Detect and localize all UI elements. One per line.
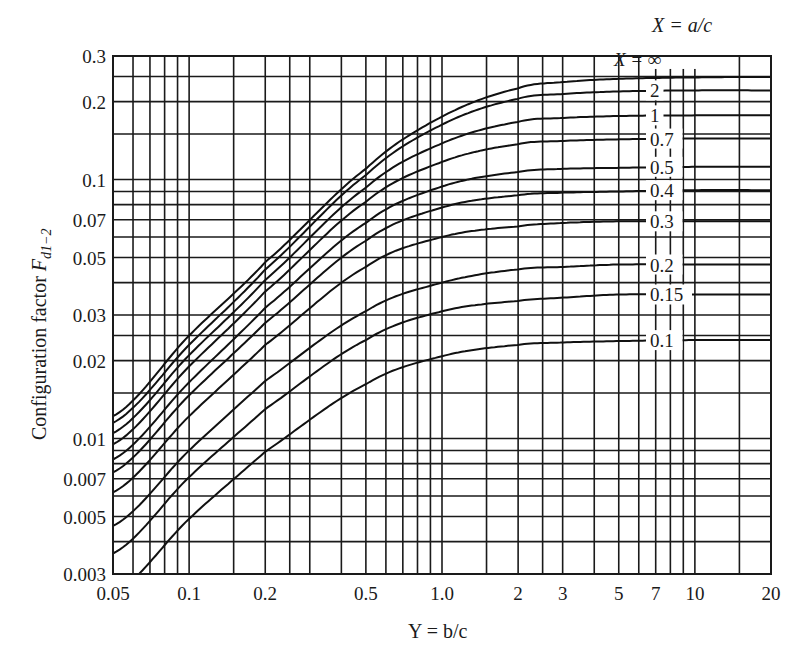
- x-tick-label: 1.0: [430, 583, 454, 604]
- x-tick-label: 0.5: [354, 583, 378, 604]
- y-tick-label: 0.3: [82, 46, 106, 67]
- y-tick-label: 0.007: [63, 469, 106, 490]
- y-axis-label: Configuration factor Fd1−2: [28, 228, 54, 440]
- curve-label: 0.2: [650, 255, 674, 276]
- x-axis-label: Y = b/c: [408, 620, 468, 642]
- curve-label: 1: [650, 105, 660, 126]
- curve-label: 0.3: [650, 211, 674, 232]
- y-tick-label: 0.01: [73, 429, 106, 450]
- y-tick-label: 0.02: [73, 351, 106, 372]
- y-tick-label: 0.2: [82, 92, 106, 113]
- y-axis-label-symbol: F: [28, 258, 50, 272]
- legend-title: X = a/c: [651, 14, 712, 36]
- curve-label: 0.4: [650, 180, 674, 201]
- curve-label: X = ∞: [613, 49, 661, 70]
- curve-labels: X = ∞210.70.50.40.30.20.150.1: [613, 49, 702, 351]
- x-tick-label: 7: [651, 583, 661, 604]
- x-tick-label: 3: [558, 583, 568, 604]
- x-tick-label: 0.2: [253, 583, 277, 604]
- y-axis-ticks: 0.30.20.10.070.050.030.020.010.0070.0050…: [63, 46, 106, 585]
- curve-label: 0.5: [650, 157, 674, 178]
- y-tick-label: 0.1: [82, 170, 106, 191]
- curve-label: 0.15: [650, 284, 683, 305]
- curve-label: 0.1: [650, 330, 674, 351]
- y-axis-label-text: Configuration factor: [28, 271, 51, 440]
- x-tick-label: 0.05: [96, 583, 129, 604]
- configuration-factor-chart: X = ∞210.70.50.40.30.20.150.1 0.050.10.2…: [0, 0, 806, 657]
- x-tick-label: 20: [762, 583, 781, 604]
- curve-label: 0.7: [650, 129, 674, 150]
- y-tick-label: 0.005: [63, 507, 106, 528]
- x-tick-label: 10: [685, 583, 704, 604]
- y-tick-label: 0.003: [63, 564, 106, 585]
- x-tick-label: 5: [614, 583, 624, 604]
- y-tick-label: 0.07: [73, 210, 106, 231]
- curve-label: 2: [650, 80, 660, 101]
- x-tick-label: 0.1: [177, 583, 201, 604]
- y-tick-label: 0.03: [73, 305, 106, 326]
- y-axis-label-subscript: d1−2: [39, 228, 54, 258]
- y-tick-label: 0.05: [73, 248, 106, 269]
- x-tick-label: 2: [513, 583, 523, 604]
- x-axis-ticks: 0.050.10.20.51.023571020: [96, 583, 780, 604]
